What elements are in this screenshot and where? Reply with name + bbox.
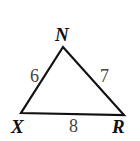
side-label-nr: 7 xyxy=(100,66,109,86)
vertex-label-r: R xyxy=(111,116,125,137)
side-label-xn: 6 xyxy=(30,66,39,86)
triangle-diagram: N X R 6 7 8 xyxy=(0,0,140,141)
vertex-label-n: N xyxy=(54,24,70,45)
side-label-xr: 8 xyxy=(69,116,78,136)
vertex-label-x: X xyxy=(10,116,25,137)
